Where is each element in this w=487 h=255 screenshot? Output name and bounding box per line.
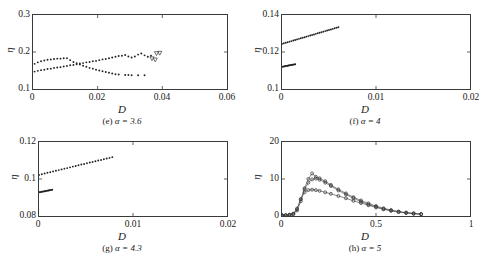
x-tick-f-1: 0.01 — [356, 92, 396, 102]
panel-e: η 0.3 0.2 0.1 0 0.02 0.04 0.06 D (e) α =… — [0, 0, 244, 128]
caption-g-alpha: α = 4.3 — [115, 243, 142, 253]
caption-h-alpha: α = 5 — [361, 243, 381, 253]
panel-h: η 20 10 0 0 0.5 1 D (h) α = 5 — [243, 129, 487, 255]
caption-h: (h) α = 5 — [243, 243, 487, 253]
caption-e-prefix: (e) — [103, 116, 113, 126]
caption-f-alpha: α = 4 — [361, 116, 381, 126]
x-tick-h-2: 1 — [451, 219, 487, 229]
x-tick-e-2: 0.04 — [142, 92, 182, 102]
y-tick-f-1: 0.12 — [249, 46, 279, 56]
x-tick-g-0: 0 — [18, 219, 58, 229]
data-layer-e — [33, 15, 227, 89]
y-tick-e-2: 0.3 — [4, 9, 30, 19]
x-axis-label-h: D — [243, 230, 487, 242]
x-tick-g-1: 0.01 — [113, 219, 153, 229]
x-axis-label-e: D — [0, 103, 244, 115]
data-layer-h — [282, 142, 470, 216]
x-axis-label-f: D — [243, 103, 487, 115]
x-tick-e-3: 0.06 — [207, 92, 247, 102]
figure-panel-grid: η 0.3 0.2 0.1 0 0.02 0.04 0.06 D (e) α =… — [0, 0, 487, 255]
y-tick-h-2: 20 — [251, 136, 279, 146]
y-tick-g-2: 0.12 — [4, 136, 36, 146]
x-tick-f-2: 0.02 — [451, 92, 487, 102]
plot-area-h — [281, 141, 471, 217]
y-tick-h-1: 10 — [251, 173, 279, 183]
data-layer-f — [282, 15, 470, 89]
caption-e-alpha: α = 3.6 — [115, 116, 142, 126]
x-axis-label-g: D — [0, 230, 244, 242]
panel-g: η 0.12 0.1 0.08 0 0.01 0.02 D (g) α = 4.… — [0, 129, 244, 255]
plot-area-f — [281, 14, 471, 90]
x-tick-e-0: 0 — [12, 92, 52, 102]
caption-g-prefix: (g) — [102, 243, 113, 253]
plot-area-g — [38, 141, 228, 217]
x-tick-e-1: 0.02 — [77, 92, 117, 102]
x-tick-h-0: 0 — [261, 219, 301, 229]
data-layer-g — [39, 142, 227, 216]
y-tick-f-2: 0.14 — [249, 9, 279, 19]
x-tick-g-2: 0.02 — [208, 219, 248, 229]
panel-f: η 0.14 0.12 0.1 0 0.01 0.02 D (f) α = 4 — [243, 0, 487, 128]
caption-g: (g) α = 4.3 — [0, 243, 244, 253]
caption-h-prefix: (h) — [349, 243, 360, 253]
caption-f-prefix: (f) — [349, 116, 358, 126]
plot-area-e — [32, 14, 228, 90]
y-tick-g-1: 0.1 — [4, 173, 36, 183]
x-tick-h-1: 0.5 — [356, 219, 396, 229]
y-tick-e-1: 0.2 — [4, 46, 30, 56]
caption-f: (f) α = 4 — [243, 116, 487, 126]
caption-e: (e) α = 3.6 — [0, 116, 244, 126]
x-tick-f-0: 0 — [261, 92, 301, 102]
